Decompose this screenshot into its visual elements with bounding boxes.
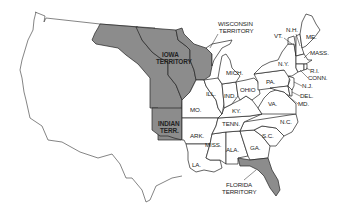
label-nj: N.J. xyxy=(302,82,313,89)
label-pa: PA. xyxy=(266,78,276,85)
label-ny: N.Y. xyxy=(278,60,289,67)
leader-nj xyxy=(294,82,302,86)
label-ri: R.I. xyxy=(310,67,320,74)
leader-conn xyxy=(300,70,308,78)
label-mo: MO. xyxy=(190,106,202,113)
us-territories-map: WISCONSIN TERRITORY IOWA TERRITORY INDIA… xyxy=(0,0,350,216)
label-indian-territory-2: TERR. xyxy=(160,127,179,134)
label-va: VA. xyxy=(268,100,278,107)
label-florida-territory: FLORIDA xyxy=(226,181,253,188)
state-maine xyxy=(300,14,320,48)
label-ind: IND. xyxy=(224,92,236,99)
label-ark: ARK. xyxy=(190,132,204,139)
label-la: LA. xyxy=(192,161,201,168)
leader-del xyxy=(292,92,300,96)
label-ga: GA. xyxy=(250,144,261,151)
label-vt: VT. xyxy=(274,32,283,39)
label-wisconsin-territory-2: TERRITORY xyxy=(219,27,254,34)
label-mich: MICH. xyxy=(226,69,243,76)
label-nh: N.H. xyxy=(286,26,298,33)
label-md: MD. xyxy=(298,100,309,107)
leader-florida xyxy=(244,170,256,180)
label-florida-territory-2: TERRITORY xyxy=(222,188,257,195)
label-ill: ILL. xyxy=(206,90,216,97)
label-iowa-territory: IOWA xyxy=(162,51,179,58)
label-miss: MISS. xyxy=(205,141,222,148)
label-wisconsin-territory: WISCONSIN xyxy=(218,20,253,27)
label-tenn: TENN. xyxy=(222,120,240,127)
label-ala: ALA. xyxy=(226,146,239,153)
label-iowa-territory-2: TERRITORY xyxy=(156,58,193,65)
label-del: DEL. xyxy=(300,92,314,99)
state-rhode-island xyxy=(304,64,307,70)
label-me: ME. xyxy=(306,33,317,40)
label-nc: N.C. xyxy=(280,118,292,125)
label-ky: KY. xyxy=(232,107,241,114)
label-mass: MASS. xyxy=(310,49,329,56)
label-conn: CONN. xyxy=(308,74,328,81)
state-connecticut xyxy=(296,64,304,72)
label-ohio: OHIO xyxy=(240,86,256,93)
label-indian-territory: INDIAN xyxy=(158,120,180,127)
state-new-york xyxy=(254,44,298,76)
label-sc: S.C. xyxy=(262,132,274,139)
